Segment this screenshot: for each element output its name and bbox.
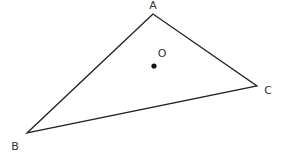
triangle-abc	[27, 14, 257, 133]
triangle-diagram: A B C O	[0, 0, 289, 153]
vertex-label-c: C	[264, 84, 272, 97]
vertex-label-b: B	[11, 140, 19, 153]
point-label-o: O	[158, 47, 167, 60]
point-o-dot	[151, 63, 156, 68]
vertex-label-a: A	[149, 0, 157, 12]
